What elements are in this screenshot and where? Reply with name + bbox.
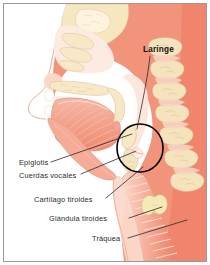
figure-frame: Laringe Epiglotis Cuerdas vocales Cartíl… xyxy=(0,0,210,265)
uvula xyxy=(114,121,121,132)
figure-stage: Laringe Epiglotis Cuerdas vocales Cartíl… xyxy=(4,4,206,261)
label-traquea: Tráquea xyxy=(92,235,120,242)
label-glandula-tiroides: Glándula tiroides xyxy=(49,215,107,222)
label-epiglotis: Epiglotis xyxy=(19,159,48,166)
label-cartilago-tiroides: Cartílago tiroides xyxy=(34,196,93,203)
label-laringe: Laringe xyxy=(143,46,174,54)
label-cuerdas-vocales: Cuerdas vocales xyxy=(19,172,76,179)
